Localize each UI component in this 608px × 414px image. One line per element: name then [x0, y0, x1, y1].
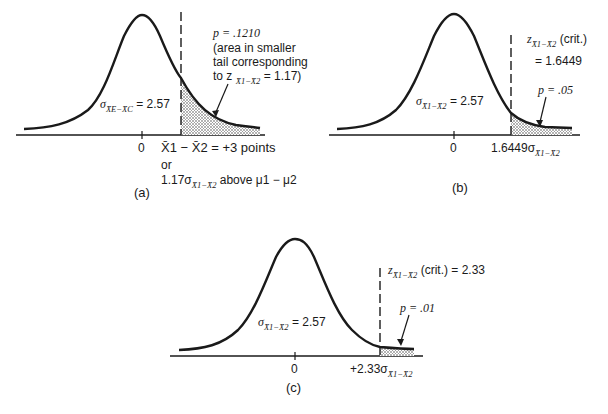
panel-c-x-label: +2.33σX̄1−X̄2 — [350, 363, 412, 380]
panel-c-graph — [170, 239, 423, 360]
panel-a-p-value: p = .1210 — [213, 27, 260, 41]
panel-c-zero-label: 0 — [291, 363, 298, 377]
normal-curve — [179, 239, 414, 350]
panel-b-zero-label: 0 — [450, 142, 457, 156]
panel-c-caption: (c) — [286, 380, 301, 395]
panel-a-x-label-alt: 1.17σX̄1−X̄2 above μ1 − μ2 — [161, 174, 297, 191]
panel-c-p-value: p = .01 — [400, 302, 435, 316]
panel-a-x-label: X̄1 − X̄2 = +3 points — [161, 141, 276, 156]
arrow-shaft — [401, 315, 409, 341]
panel-a-sigma-label: σX̄E−X̄C = 2.57 — [100, 98, 170, 115]
arrow-head — [397, 339, 404, 346]
panel-c-sigma-label: σX̄1−X̄2 = 2.57 — [258, 316, 326, 333]
panel-a-caption: (a) — [134, 185, 150, 200]
panel-a-note-line-2: tail corresponding — [213, 56, 308, 70]
panel-c-crit-label: zX̄1−X̄2 (crit.) = 2.33 — [388, 264, 485, 281]
panel-b-crit-value: = 1.6449 — [535, 55, 582, 69]
panel-a-or: or — [161, 159, 172, 173]
panel-a-note-line-3: to z X̄1−X̄2 = 1.17) — [213, 70, 301, 87]
panel-a-zero-label: 0 — [138, 142, 145, 156]
panel-b-x-label: 1.6449σX̄1−X̄2 — [491, 142, 560, 159]
panel-b-crit-label: zX̄1−X̄2 (crit.) — [527, 33, 587, 50]
panel-b-caption: (b) — [452, 180, 468, 195]
panel-b-sigma-label: σX̄1−X̄2 = 2.57 — [416, 95, 484, 112]
panel-b-p-value: p = .05 — [538, 84, 573, 98]
arrow-shaft — [540, 97, 546, 122]
arrow-shaft — [216, 84, 228, 112]
panel-a-note-line-1: (area in smaller — [213, 42, 296, 56]
